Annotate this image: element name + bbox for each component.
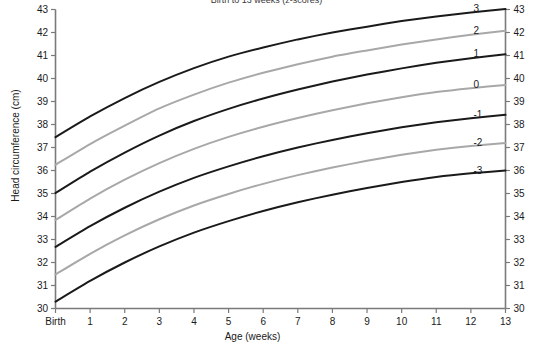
y-tick-label-left: 30 xyxy=(10,304,48,314)
y-tick-label-right: 33 xyxy=(514,235,533,245)
y-tick-label-right: 42 xyxy=(514,28,533,38)
y-tick-label-right: 34 xyxy=(514,212,533,222)
z-score-label-2: 2 xyxy=(474,26,480,36)
z-score-label-3: 3 xyxy=(474,4,480,14)
y-tick-label-left: 33 xyxy=(10,235,48,245)
y-tick-label-left: 37 xyxy=(10,143,48,153)
curve-z-1 xyxy=(56,54,506,193)
y-tick-label-right: 41 xyxy=(514,51,533,61)
y-tick-label-left: 36 xyxy=(10,166,48,176)
y-tick-label-left: 40 xyxy=(10,74,48,84)
curve-z-2 xyxy=(56,31,506,165)
z-score-label--1: -1 xyxy=(474,110,483,120)
y-tick-label-left: 41 xyxy=(10,51,48,61)
z-score-label--3: -3 xyxy=(474,166,483,176)
y-tick-label-right: 32 xyxy=(514,258,533,268)
y-tick-label-right: 39 xyxy=(514,97,533,107)
y-tick-label-right: 30 xyxy=(514,304,533,314)
y-tick-label-left: 32 xyxy=(10,258,48,268)
x-tick-label: 13 xyxy=(481,317,531,327)
y-tick-label-left: 39 xyxy=(10,97,48,107)
plot-area xyxy=(0,0,533,352)
growth-chart: Birth to 13 weeks (z-scores) Head circum… xyxy=(0,0,533,352)
z-score-label--2: -2 xyxy=(474,138,483,148)
curve-z-3 xyxy=(56,9,506,137)
y-tick-label-left: 43 xyxy=(10,5,48,15)
y-tick-label-left: 38 xyxy=(10,120,48,130)
y-tick-label-right: 37 xyxy=(514,143,533,153)
y-tick-label-right: 36 xyxy=(514,166,533,176)
y-tick-label-right: 40 xyxy=(514,74,533,84)
z-score-label-1: 1 xyxy=(474,49,480,59)
chart-title: Birth to 13 weeks (z-scores) xyxy=(0,0,533,5)
x-axis-title: Age (weeks) xyxy=(0,331,505,342)
y-tick-label-right: 31 xyxy=(514,281,533,291)
y-tick-label-right: 43 xyxy=(514,5,533,15)
y-tick-label-left: 42 xyxy=(10,28,48,38)
y-tick-label-left: 34 xyxy=(10,212,48,222)
y-tick-label-left: 35 xyxy=(10,189,48,199)
y-tick-label-right: 35 xyxy=(514,189,533,199)
z-score-label-0: 0 xyxy=(474,80,480,90)
y-tick-label-left: 31 xyxy=(10,281,48,291)
y-tick-label-right: 38 xyxy=(514,120,533,130)
